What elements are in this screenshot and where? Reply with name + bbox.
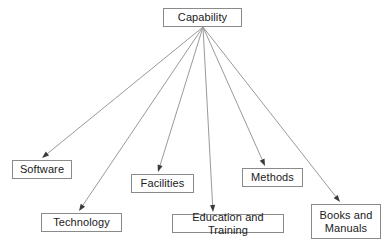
node-software[interactable]: Software — [12, 160, 72, 179]
node-education[interactable]: Education and Training — [172, 214, 284, 233]
node-label-facilities: Facilities — [141, 177, 185, 190]
edge-capability-facilities-line — [160, 27, 203, 165]
edge-capability-books-arrowhead-icon — [334, 195, 340, 202]
edge-capability-methods-arrowhead-icon — [260, 159, 265, 166]
edge-capability-software-line — [47, 27, 203, 154]
edge-capability-software — [42, 27, 203, 158]
node-books[interactable]: Books and Manuals — [311, 204, 381, 239]
edge-capability-methods — [203, 27, 265, 166]
node-label-software: Software — [20, 163, 64, 176]
node-label-methods: Methods — [251, 171, 294, 184]
node-label-technology: Technology — [53, 216, 110, 229]
diagram-canvas: CapabilitySoftwareTechnologyFacilitiesEd… — [0, 0, 389, 245]
node-label-education: Education and Training — [173, 211, 283, 237]
node-methods[interactable]: Methods — [242, 168, 303, 187]
edge-capability-facilities-arrowhead-icon — [158, 165, 163, 172]
edge-capability-technology-arrowhead-icon — [79, 204, 85, 211]
edge-capability-software-arrowhead-icon — [42, 152, 49, 158]
edge-capability-facilities — [158, 27, 203, 172]
node-label-capability: Capability — [178, 11, 227, 24]
edge-capability-education-line — [203, 27, 213, 205]
node-facilities[interactable]: Facilities — [131, 174, 194, 193]
root-node-capability[interactable]: Capability — [163, 8, 242, 27]
node-technology[interactable]: Technology — [41, 213, 122, 232]
node-label-books: Books and Manuals — [320, 209, 373, 235]
edge-capability-education — [203, 27, 215, 212]
edge-capability-methods-line — [203, 27, 262, 160]
